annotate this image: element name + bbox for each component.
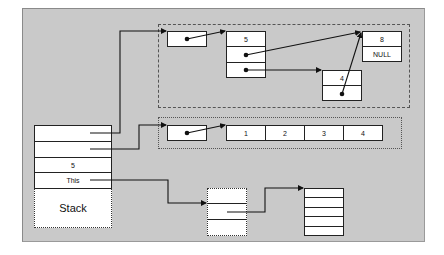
pointer-arrows [0,0,444,255]
